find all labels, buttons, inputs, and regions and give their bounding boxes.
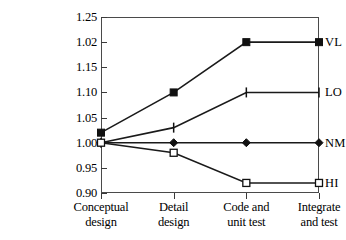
data-point-marker: [170, 89, 177, 96]
chart-container: 1.251.021.151.101.051.000.950.90 Concept…: [0, 0, 346, 240]
data-point-marker: [170, 139, 178, 147]
series-line: [101, 143, 319, 183]
data-point-marker: [243, 39, 250, 46]
data-point-marker: [242, 139, 250, 147]
series-hi: [98, 139, 323, 186]
data-point-marker: [316, 39, 323, 46]
series-line: [101, 92, 319, 142]
data-point-marker: [98, 139, 105, 146]
data-point-marker: [243, 179, 250, 186]
series-vl: [98, 39, 323, 137]
series-lo: [101, 87, 319, 147]
series-plot-layer: [0, 0, 346, 240]
data-point-marker: [170, 149, 177, 156]
series-nm: [97, 139, 323, 147]
data-point-marker: [316, 179, 323, 186]
data-point-marker: [315, 139, 323, 147]
data-point-marker: [98, 129, 105, 136]
series-line: [101, 42, 319, 133]
